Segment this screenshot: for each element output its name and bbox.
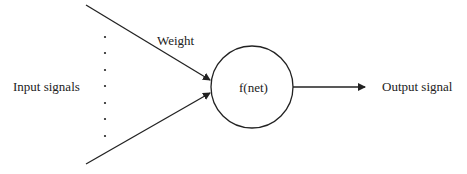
- neuron-function-label: f(net): [239, 80, 268, 96]
- ellipsis-dots: [104, 36, 106, 137]
- weight-label: Weight: [157, 33, 194, 49]
- output-signal-label: Output signal: [382, 79, 452, 95]
- input-signals-label: Input signals: [13, 79, 80, 95]
